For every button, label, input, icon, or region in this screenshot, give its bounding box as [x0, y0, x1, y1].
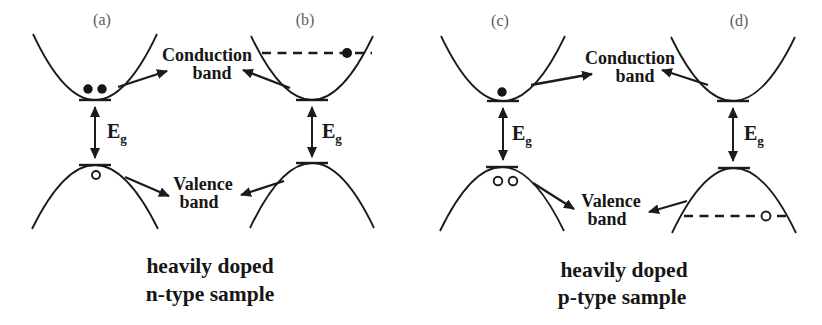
conduction-band-pointer-arrow-d	[662, 70, 708, 85]
bandgap-label-d: Eg	[744, 122, 764, 148]
bandgap-label-c: Eg	[512, 122, 532, 148]
valence-band-label-line1: Valence	[581, 191, 640, 211]
conduction-band-curve-b	[251, 36, 373, 100]
hole-dot	[509, 177, 518, 186]
valence-band-label-line1: Valence	[173, 174, 232, 194]
p-type-caption-line1: heavily doped	[560, 258, 687, 282]
valence-band-label-line2: band	[179, 192, 218, 212]
conduction-band-label-line2: band	[192, 63, 231, 83]
n-type-caption-line2: n-type sample	[146, 282, 274, 306]
conduction-band-label-line2: band	[615, 66, 654, 86]
n-type-group: (a) Eg (b) Eg	[32, 11, 374, 306]
valence-band-curve-b	[250, 163, 374, 228]
panel-a-label: (a)	[93, 11, 111, 29]
panel-c: (c) Eg	[440, 12, 565, 231]
valence-band-curve-c	[440, 167, 564, 231]
electron-dot	[497, 87, 506, 96]
bandgap-label-b: Eg	[322, 120, 342, 146]
bandgap-label-a: Eg	[107, 120, 127, 146]
p-type-caption-line2: p-type sample	[558, 285, 686, 309]
valence-band-pointer-arrow-d	[649, 201, 687, 212]
valence-band-pointer-arrow-b	[241, 181, 284, 195]
conduction-band-label-line1: Conduction	[585, 48, 675, 68]
valence-band-label-line2: band	[587, 209, 626, 229]
panel-c-label: (c)	[491, 12, 509, 30]
panel-d-label: (d)	[730, 12, 749, 30]
electron-dot	[97, 84, 106, 93]
hole-dot	[494, 177, 503, 186]
panel-b-label: (b)	[296, 11, 315, 29]
conduction-band-pointer-arrow-c	[531, 74, 592, 85]
panel-d: (d) Eg	[671, 12, 796, 233]
hole-dot	[762, 212, 771, 221]
p-type-group: (c) Eg (d) Eg	[440, 12, 796, 309]
electron-dot	[83, 84, 92, 93]
n-type-caption-line1: heavily doped	[146, 254, 273, 278]
panel-b: (b) Eg	[250, 11, 374, 228]
conduction-band-pointer-arrow-a	[118, 71, 167, 87]
hole-dot	[92, 171, 100, 179]
band-structure-figure: (a) Eg (b) Eg	[0, 0, 822, 325]
conduction-band-label-line1: Conduction	[162, 45, 252, 65]
band-structure-svg: (a) Eg (b) Eg	[0, 0, 822, 325]
conduction-band-curve-a	[33, 34, 157, 100]
conduction-band-pointer-arrow-b	[243, 70, 290, 88]
valence-band-pointer-arrow-c	[533, 183, 574, 209]
valence-band-curve-d	[672, 168, 796, 233]
panel-a: (a) Eg	[32, 11, 158, 229]
electron-dot	[342, 48, 352, 58]
conduction-band-curve-d	[671, 37, 795, 101]
